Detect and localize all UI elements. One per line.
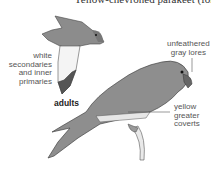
annotation-line: primaries [4, 78, 52, 87]
lores-annotation: unfeathered gray lores [167, 40, 210, 57]
coverts-annotation: yellow greater coverts [174, 103, 200, 129]
bird-illustrations [0, 0, 211, 181]
annotation-line: coverts [174, 120, 200, 129]
wing-annotation: white secondaries and inner primaries [4, 52, 52, 86]
annotation-line: gray lores [167, 49, 210, 58]
adults-label: adults [54, 98, 79, 108]
